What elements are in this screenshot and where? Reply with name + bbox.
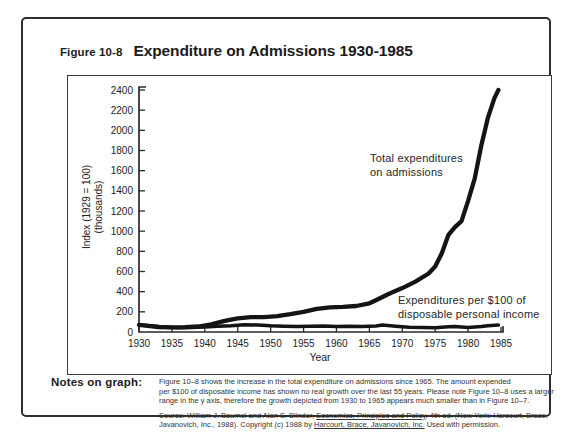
x-axis-tick-label: 1930 — [128, 338, 151, 349]
x-axis-tick-label: 1960 — [325, 338, 348, 349]
figure-title: Expenditure on Admissions 1930-1985 — [133, 42, 412, 60]
y-axis-tick-label: 2200 — [111, 105, 134, 116]
x-axis-tick-label: 1970 — [391, 338, 414, 349]
x-axis-title: Year — [309, 351, 331, 363]
y-axis-tick-label: 200 — [116, 306, 133, 317]
y-axis-tick-label: 600 — [116, 266, 133, 277]
notes-paragraph: Figure 10–8 shows the increase in the to… — [159, 377, 559, 406]
y-axis-tick-label: 2000 — [111, 125, 134, 136]
notes-line-2: per $100 of disposable income has shown … — [159, 387, 559, 397]
notes-line-3: range in the y axis, therefore the growt… — [159, 396, 559, 406]
y-axis-tick-label: 1600 — [111, 165, 134, 176]
series-label-total: Total expenditures on admissions — [370, 152, 463, 179]
book-title: Economics, Principles and Policy — [316, 411, 426, 420]
figure-number: Figure 10-8 — [60, 46, 122, 58]
x-axis-tick-label: 1980 — [457, 338, 480, 349]
x-axis-tick-label: 1950 — [260, 338, 283, 349]
y-axis-tick-label: 800 — [116, 246, 133, 257]
chart-panel: 0200400600800100012001400160018002000220… — [67, 75, 552, 375]
figure-border: Figure 10-8 Expenditure on Admissions 19… — [21, 17, 551, 417]
x-axis-tick-label: 1955 — [292, 338, 315, 349]
y-axis-title-line: Index (1929 = 100) — [81, 165, 92, 249]
series-label-total-line2: on admissions — [370, 166, 463, 180]
x-axis-tick-label: 1985 — [490, 338, 513, 349]
y-axis-tick-label: 2400 — [111, 85, 134, 96]
series-label-ratio: Expenditures per $100 of disposable pers… — [398, 294, 540, 321]
series-total-line — [139, 90, 498, 327]
notes-line-1: Figure 10–8 shows the increase in the to… — [159, 377, 559, 387]
source-line-1: Source: William J. Baumol and Alan S. Bl… — [159, 411, 559, 421]
x-axis-tick-label: 1945 — [227, 338, 250, 349]
notes-heading: Notes on graph: — [51, 376, 142, 388]
source-citation: Source: William J. Baumol and Alan S. Bl… — [159, 411, 559, 430]
x-axis-tick-label: 1965 — [358, 338, 381, 349]
notes-body: Figure 10–8 shows the increase in the to… — [159, 377, 559, 430]
y-axis-tick-label: 1400 — [111, 185, 134, 196]
series-label-total-line1: Total expenditures — [370, 152, 463, 166]
source-line-2: Javanovich, Inc., 1988). Copyright (c) 1… — [159, 420, 559, 430]
series-label-ratio-line2: disposable personal income — [398, 308, 540, 322]
x-axis-tick-label: 1975 — [424, 338, 447, 349]
figure-header: Figure 10-8 Expenditure on Admissions 19… — [60, 42, 413, 60]
x-axis-tick-label: 1935 — [161, 338, 184, 349]
y-axis-tick-label: 400 — [116, 286, 133, 297]
figure-page: { "figure": { "label": "Figure 10-8", "t… — [0, 0, 574, 441]
publisher-name: Harcourt, Brace, Javanovich, Inc. — [314, 420, 424, 429]
chart-canvas: 0200400600800100012001400160018002000220… — [68, 76, 551, 374]
y-axis-tick-label: 1000 — [111, 226, 134, 237]
series-label-ratio-line1: Expenditures per $100 of — [398, 294, 540, 308]
x-axis-tick-label: 1940 — [194, 338, 217, 349]
y-axis-title-line: (thousands) — [93, 181, 104, 234]
y-axis-tick-label: 1200 — [111, 206, 134, 217]
y-axis-tick-label: 0 — [127, 327, 133, 338]
y-axis-tick-label: 1800 — [111, 145, 134, 156]
